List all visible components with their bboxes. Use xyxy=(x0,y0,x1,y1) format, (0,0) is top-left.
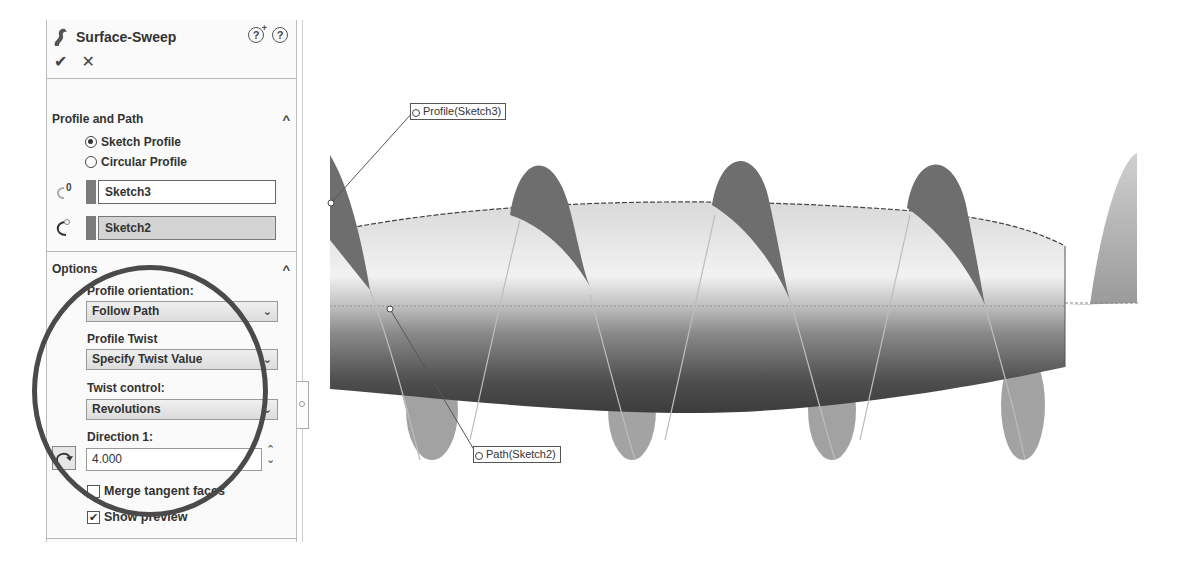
radio-label: Sketch Profile xyxy=(101,135,181,149)
radio-label: Circular Profile xyxy=(101,155,187,169)
path-icon xyxy=(52,216,80,240)
divider xyxy=(47,251,296,252)
surface-sweep-icon xyxy=(52,26,70,48)
panel-splitter[interactable] xyxy=(297,20,303,542)
chevron-up-icon[interactable]: ^ xyxy=(282,262,290,277)
divider xyxy=(47,538,296,539)
profile-twist-dropdown[interactable]: Specify Twist Value ⌄ xyxy=(86,349,278,370)
divider xyxy=(47,78,296,79)
show-preview-option[interactable]: ✔ Show preview xyxy=(87,510,187,524)
section-header-options[interactable]: Options ^ xyxy=(52,260,290,278)
profile-twist-label: Profile Twist xyxy=(87,332,157,346)
chevron-down-icon: ⌄ xyxy=(263,400,272,419)
graphics-viewport[interactable]: Profile(Sketch3) Path(Sketch2) xyxy=(310,0,1185,569)
chevron-down-icon: ⌄ xyxy=(263,302,272,321)
profile-selection-row: 0 Sketch3 xyxy=(52,180,276,204)
feature-title: Surface-Sweep xyxy=(76,29,176,45)
twist-control-dropdown[interactable]: Revolutions ⌄ xyxy=(86,399,278,420)
profile-orientation-label: Profile orientation: xyxy=(87,284,194,298)
cancel-button[interactable]: ✕ xyxy=(81,52,94,71)
path-selection-box[interactable]: Sketch2 xyxy=(98,216,276,240)
checkbox[interactable] xyxy=(87,485,100,498)
twist-control-label: Twist control: xyxy=(87,381,165,395)
chevron-up-icon[interactable]: ^ xyxy=(282,112,290,127)
section-header-profile-and-path[interactable]: Profile and Path ^ xyxy=(52,110,290,128)
merge-tangent-faces-option[interactable]: Merge tangent faces xyxy=(87,484,225,498)
path-callout[interactable]: Path(Sketch2) xyxy=(473,446,561,463)
checkbox-label: Merge tangent faces xyxy=(104,484,225,498)
radio-sketch-profile[interactable]: Sketch Profile xyxy=(85,135,181,149)
callout-pin-icon xyxy=(412,109,420,117)
chevron-down-icon: ⌄ xyxy=(263,350,272,369)
reverse-twist-direction-button[interactable] xyxy=(52,446,76,470)
callout-label: Profile(Sketch3) xyxy=(423,105,501,117)
rotate-arrow-icon xyxy=(53,447,75,469)
profile-callout[interactable]: Profile(Sketch3) xyxy=(410,103,506,120)
ok-button[interactable]: ✔ xyxy=(54,52,67,71)
svg-text:0: 0 xyxy=(66,182,72,193)
section-title: Options xyxy=(52,262,97,276)
radio-button[interactable] xyxy=(85,156,97,168)
spin-down-icon[interactable]: ⌄ xyxy=(266,454,275,464)
radio-circular-profile[interactable]: Circular Profile xyxy=(85,155,187,169)
selection-color-swatch xyxy=(86,180,96,204)
dropdown-value: Follow Path xyxy=(92,304,159,318)
profile-icon: 0 xyxy=(52,180,80,204)
direction-1-value-input[interactable]: 4.000 xyxy=(86,448,262,471)
direction-1-label: Direction 1: xyxy=(87,430,153,444)
value-spinner[interactable]: ⌃ ⌄ xyxy=(266,444,275,464)
checkbox-checked[interactable]: ✔ xyxy=(87,511,100,524)
profile-orientation-dropdown[interactable]: Follow Path ⌄ xyxy=(86,301,278,322)
callout-pin-icon xyxy=(475,452,483,460)
dropdown-value: Specify Twist Value xyxy=(92,352,202,366)
dropdown-value: Revolutions xyxy=(92,402,161,416)
section-title: Profile and Path xyxy=(52,112,143,126)
surface-sweep-preview xyxy=(310,0,1185,569)
profile-selection-box[interactable]: Sketch3 xyxy=(98,180,276,204)
help-icon[interactable]: ? xyxy=(272,27,288,43)
handle-dot-icon xyxy=(299,401,305,407)
selection-color-swatch xyxy=(86,216,96,240)
checkbox-label: Show preview xyxy=(104,510,187,524)
feature-title-row: Surface-Sweep ?+ ? xyxy=(52,24,292,50)
radio-button-checked[interactable] xyxy=(85,136,97,148)
whats-new-help-icon[interactable]: ?+ xyxy=(248,27,264,43)
callout-label: Path(Sketch2) xyxy=(486,448,556,460)
path-selection-row: Sketch2 xyxy=(52,216,276,240)
